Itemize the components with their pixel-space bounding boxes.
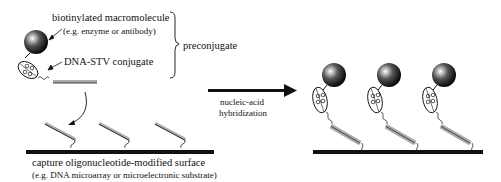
process-label-line2: hybridization: [219, 108, 267, 118]
surface-right: [313, 150, 483, 154]
preconjugate-label: preconjugate: [183, 40, 237, 51]
conjugate-label: DNA-STV conjugate: [64, 56, 153, 67]
macromolecule-sphere: [24, 30, 48, 54]
process-arrow: [208, 84, 297, 97]
macromolecule-label: biotinylated macromolecule: [52, 12, 170, 23]
curved-arrow: [72, 92, 86, 123]
surface-label: capture oligonucleotide-modified surface: [32, 157, 205, 168]
capture-strands-left: [41, 122, 187, 148]
pointer-arrows: [48, 29, 62, 70]
dna-strand: [53, 80, 97, 83]
preconjugate-bracket: [170, 12, 179, 78]
process-label-line1: nucleic-acid: [220, 97, 264, 107]
hybridized-complexes: [310, 63, 473, 153]
macromolecule-example-label: (e.g. enzyme or antibody): [63, 26, 156, 36]
surface-left: [26, 150, 214, 154]
surface-example-label: (e.g. DNA microarray or microelectronic …: [32, 170, 217, 180]
